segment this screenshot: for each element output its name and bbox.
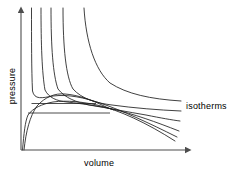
isotherm-curve-supercritical — [84, 8, 181, 101]
isotherms-annotation-label: isotherms — [186, 101, 227, 111]
isotherm-curve-critical — [63, 8, 181, 111]
isotherm-curves — [23, 8, 182, 150]
y-axis-label: pressure — [7, 60, 17, 112]
pv-isotherm-figure: pressure volume isotherms — [0, 0, 237, 173]
x-axis-label: volume — [84, 158, 114, 168]
isotherm-curve-3 — [41, 8, 179, 131]
isotherm-curve-2 — [32, 8, 178, 137]
isotherm-curve-1-lowest — [23, 101, 176, 150]
pv-diagram-canvas — [0, 0, 237, 173]
isotherm-curve-4 — [51, 8, 180, 121]
